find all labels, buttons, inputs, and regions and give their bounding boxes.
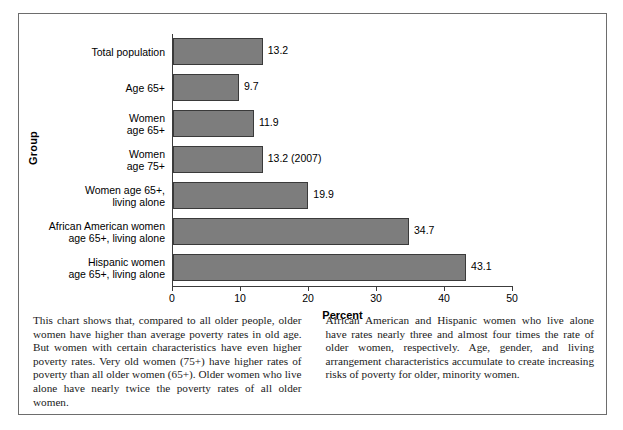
category-label: Women age 65+ bbox=[19, 112, 165, 137]
x-tick-mark bbox=[308, 287, 309, 291]
category-label: Women age 65+, living alone bbox=[19, 184, 165, 209]
category-label: Women age 75+ bbox=[19, 148, 165, 173]
x-tick-mark bbox=[376, 287, 377, 291]
x-tick-label: 10 bbox=[234, 292, 246, 304]
chart-area: Group Total populationAge 65+Women age 6… bbox=[19, 14, 608, 306]
bar bbox=[173, 182, 308, 209]
bar bbox=[173, 146, 263, 173]
bar-row: 11.9 bbox=[172, 106, 512, 142]
plot-region: 13.29.711.913.2 (2007)19.934.743.1 01020… bbox=[172, 34, 512, 286]
x-tick-label: 50 bbox=[506, 292, 518, 304]
figure-frame: Group Total populationAge 65+Women age 6… bbox=[18, 13, 607, 415]
x-tick-label: 20 bbox=[302, 292, 314, 304]
bar-value-label: 19.9 bbox=[313, 188, 333, 200]
x-tick-label: 40 bbox=[438, 292, 450, 304]
bar bbox=[173, 38, 263, 65]
bar-value-label: 9.7 bbox=[244, 80, 259, 92]
x-tick-label: 0 bbox=[169, 292, 175, 304]
category-label: Age 65+ bbox=[19, 82, 165, 95]
bar-row: 13.2 (2007) bbox=[172, 142, 512, 178]
bar bbox=[173, 74, 239, 101]
bar-value-label: 13.2 bbox=[268, 44, 288, 56]
x-tick-mark bbox=[444, 287, 445, 291]
bar bbox=[173, 254, 466, 281]
x-tick-label: 30 bbox=[370, 292, 382, 304]
bar-row: 19.9 bbox=[172, 178, 512, 214]
category-label: Hispanic women age 65+, living alone bbox=[19, 256, 165, 281]
caption-column-left: This chart shows that, compared to all o… bbox=[33, 314, 302, 415]
bar-row: 34.7 bbox=[172, 214, 512, 250]
bar-row: 9.7 bbox=[172, 70, 512, 106]
caption-column-right: African American and Hispanic women who … bbox=[326, 314, 595, 415]
bar-row: 43.1 bbox=[172, 250, 512, 286]
category-label: Total population bbox=[19, 46, 165, 59]
bar-value-label: 11.9 bbox=[259, 116, 279, 128]
bar-value-label: 34.7 bbox=[414, 224, 434, 236]
bar-row: 13.2 bbox=[172, 34, 512, 70]
x-tick-mark bbox=[512, 287, 513, 291]
bar bbox=[173, 218, 409, 245]
caption-block: This chart shows that, compared to all o… bbox=[19, 310, 608, 415]
bar-value-label: 43.1 bbox=[471, 260, 491, 272]
x-tick-mark bbox=[172, 287, 173, 291]
x-axis-line bbox=[172, 286, 513, 287]
bar-value-label: 13.2 (2007) bbox=[268, 152, 322, 164]
category-label: African American women age 65+, living a… bbox=[19, 220, 165, 245]
x-tick-mark bbox=[240, 287, 241, 291]
bar bbox=[173, 110, 254, 137]
